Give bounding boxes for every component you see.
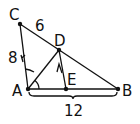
angle-arc-cad [25,69,34,72]
measure-ac: 8 [8,49,18,67]
point-b [116,87,120,91]
brace-ab [29,92,117,99]
label-d: D [54,32,66,50]
measure-ab: 12 [64,102,83,120]
label-e: E [67,71,76,89]
angle-arc-dab [35,81,39,90]
label-b: B [122,82,132,100]
segment-de [59,50,66,89]
label-c: C [9,6,19,24]
measure-cd: 6 [35,17,45,35]
geometry-diagram: C D A E B 6 8 12 [0,0,140,124]
segment-ad [28,50,59,89]
label-a: A [12,82,23,100]
point-a [26,87,30,91]
